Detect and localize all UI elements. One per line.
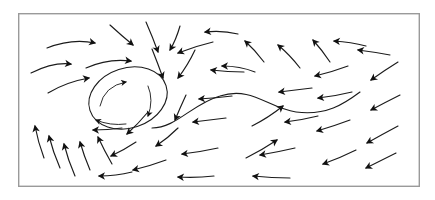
figure-border — [19, 14, 420, 187]
vector-field-figure — [0, 0, 435, 200]
flow-field-canvas — [0, 0, 435, 200]
